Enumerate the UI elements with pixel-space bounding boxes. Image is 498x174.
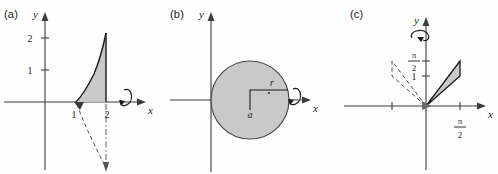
panel-a-x-ticklabel-2: 2 [105,109,110,120]
panel-b-y-axis-label: y [198,8,204,20]
panel-b-x-axis-label: x [312,102,318,114]
panel-b-labels: x y r a [166,0,332,174]
figure-container: (a) [0,0,498,174]
panel-c: (c) x y [332,0,498,174]
panel-a-x-axis-label: x [147,104,153,116]
panel-a-labels: x y 2 1 1 2 [0,0,166,174]
panel-c-y-ticklabel-pi-numerator: π [412,50,417,60]
panel-a-x-ticklabel-1: 1 [72,109,77,120]
panel-b-center-label: a [248,109,253,120]
panel-a-y-ticklabel-1: 1 [28,65,33,76]
panel-b: (b) x y r a [166,0,332,174]
panel-c-x-axis-label: x [487,108,493,120]
panel-c-labels: x y π 2 1 π 2 [332,0,498,174]
panel-a: (a) [0,0,166,174]
panel-c-x-ticklabel-pi-numerator: π [458,116,463,126]
panel-a-y-axis-label: y [32,8,38,20]
panel-b-radius-label: r [270,77,274,88]
panel-c-x-ticklabel-pi-denominator: 2 [458,130,463,140]
panel-a-y-ticklabel-2: 2 [28,33,33,44]
panel-c-y-ticklabel-1: 1 [412,71,417,82]
panel-c-y-axis-label: y [413,14,419,26]
